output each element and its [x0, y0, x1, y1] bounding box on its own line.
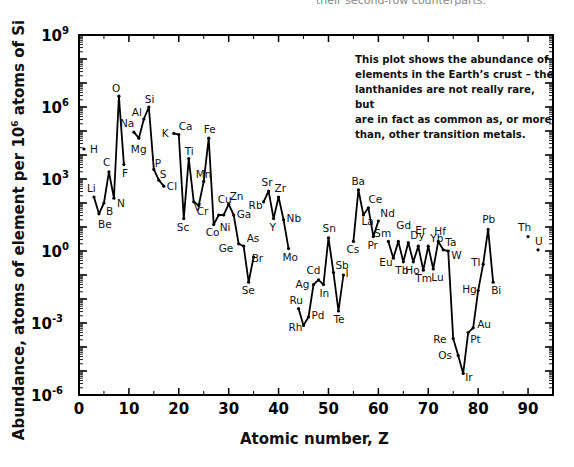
- element-label: Ru: [290, 294, 303, 306]
- element-label: H: [90, 143, 98, 155]
- element-label: Li: [87, 182, 96, 194]
- data-point: [82, 147, 85, 150]
- element-label: Pd: [312, 309, 325, 321]
- element-label: Y: [269, 221, 277, 233]
- element-label: Re: [433, 333, 446, 345]
- element-label: K: [162, 127, 170, 139]
- element-label: Ir: [465, 371, 473, 383]
- element-label: U: [535, 235, 543, 247]
- x-tick-label: 0: [74, 400, 84, 418]
- element-label: Ti: [184, 145, 194, 157]
- x-tick-label: 20: [168, 400, 189, 418]
- element-label: Sm: [374, 227, 391, 239]
- data-point: [242, 245, 245, 248]
- element-label: Ba: [351, 175, 365, 187]
- element-label: Nb: [287, 212, 302, 224]
- element-label: Br: [252, 252, 264, 264]
- x-tick-label: 50: [318, 400, 339, 418]
- element-label: Tl: [470, 256, 480, 268]
- data-point: [107, 170, 110, 173]
- data-point: [137, 137, 140, 140]
- element-label: Mn: [196, 168, 212, 180]
- element-label: Sr: [262, 176, 274, 188]
- element-label: Rb: [249, 199, 263, 211]
- element-label: S: [160, 168, 167, 180]
- data-point: [367, 206, 370, 209]
- element-label: Pt: [470, 333, 480, 345]
- data-point: [187, 157, 190, 160]
- data-point: [377, 219, 380, 222]
- element-label: Ta: [444, 236, 456, 248]
- y-axis-title-wrap: Abundance, atoms of element per 106 atom…: [2, 40, 36, 420]
- element-label: Cd: [306, 264, 320, 276]
- data-point: [357, 188, 360, 191]
- data-point: [526, 235, 529, 238]
- element-label: N: [117, 197, 125, 209]
- element-label: Ca: [179, 120, 193, 132]
- element-label: F: [122, 167, 128, 179]
- data-point: [97, 212, 100, 215]
- element-label: Cs: [346, 243, 359, 255]
- element-label: Os: [438, 349, 452, 361]
- x-tick-label: 10: [118, 400, 139, 418]
- element-label: Gd: [396, 219, 411, 231]
- data-point: [172, 132, 175, 135]
- element-label: Fe: [204, 123, 216, 135]
- element-label: Se: [242, 284, 255, 296]
- element-label: Cl: [167, 180, 177, 192]
- element-label: Mo: [283, 251, 298, 263]
- data-point: [477, 289, 480, 292]
- x-tick-label: 80: [468, 400, 489, 418]
- x-axis-title: Atomic number, Z: [240, 430, 389, 448]
- element-label: Nd: [380, 207, 395, 219]
- data-point: [452, 337, 455, 340]
- data-point: [482, 263, 485, 266]
- element-label: In: [319, 287, 329, 299]
- data-point: [307, 315, 310, 318]
- annotation-line: This plot shows the abundance of: [355, 52, 555, 67]
- data-point: [232, 213, 235, 216]
- element-label: Te: [332, 313, 344, 325]
- data-point: [267, 189, 270, 192]
- data-point: [312, 283, 315, 286]
- data-point: [222, 213, 225, 216]
- element-label: Zn: [230, 190, 244, 202]
- data-point: [447, 249, 450, 252]
- data-point: [457, 354, 460, 357]
- data-point: [387, 240, 390, 243]
- element-label: Be: [98, 218, 112, 230]
- element-label: Bi: [491, 284, 501, 296]
- data-point: [472, 326, 475, 329]
- element-label: B: [106, 205, 113, 217]
- data-point: [117, 95, 120, 98]
- element-label: Pr: [367, 239, 378, 251]
- y-tick-label: 106: [41, 97, 69, 117]
- y-tick-label: 103: [41, 169, 69, 189]
- element-label: Er: [415, 224, 427, 236]
- element-label: Ag: [296, 278, 310, 290]
- data-point: [282, 218, 285, 221]
- data-point: [132, 131, 135, 134]
- element-label: Zr: [275, 182, 287, 194]
- annotation-line: are in fact as common as, or more: [355, 112, 555, 127]
- x-tick-label: 30: [218, 400, 239, 418]
- data-point: [277, 195, 280, 198]
- element-label: Tm: [414, 272, 432, 284]
- data-point: [327, 236, 330, 239]
- annotation-line: elements in the Earth’s crust – the: [355, 67, 555, 82]
- element-label: Sn: [322, 222, 335, 234]
- element-label: Co: [206, 226, 220, 238]
- data-point: [332, 271, 335, 274]
- data-point: [317, 278, 320, 281]
- data-point: [237, 242, 240, 245]
- data-point: [442, 248, 445, 251]
- element-label: Ni: [220, 221, 231, 233]
- element-label: La: [361, 215, 373, 227]
- y-tick-label: 109: [41, 25, 69, 45]
- element-label: Th: [517, 221, 531, 233]
- element-label: Au: [477, 318, 491, 330]
- data-point: [417, 245, 420, 248]
- element-label: Lu: [431, 271, 443, 283]
- element-label: Cr: [197, 205, 209, 217]
- x-tick-label: 40: [268, 400, 289, 418]
